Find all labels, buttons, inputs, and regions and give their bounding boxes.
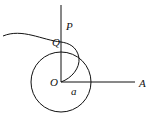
label-O: O bbox=[50, 76, 58, 88]
label-P: P bbox=[65, 20, 73, 32]
label-a: a bbox=[71, 85, 77, 97]
label-A: A bbox=[138, 77, 146, 89]
spiral-curve bbox=[3, 33, 79, 82]
spiral-diagram: P Q O A a bbox=[0, 0, 152, 119]
label-Q: Q bbox=[52, 36, 60, 48]
